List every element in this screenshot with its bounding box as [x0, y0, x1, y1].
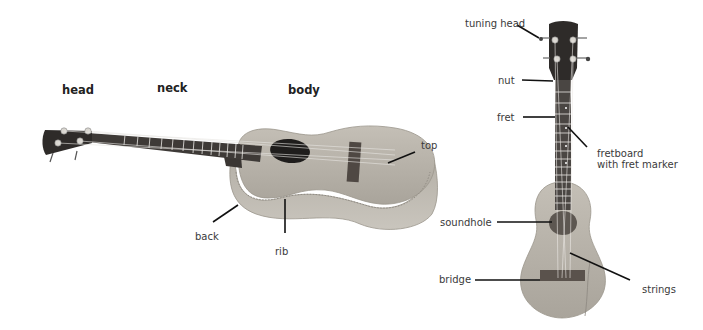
right-ukulele-headstock	[549, 21, 578, 80]
label-tuning-head: tuning head	[465, 18, 525, 30]
right-ukulele-soundhole	[549, 211, 577, 235]
label-strings: strings	[642, 284, 676, 296]
label-back: back	[195, 231, 219, 243]
label-head: head	[62, 84, 94, 96]
label-nut: nut	[498, 75, 515, 87]
label-body: body	[288, 84, 320, 96]
label-rib: rib	[275, 246, 288, 258]
right-ukulele-illustration	[521, 21, 606, 318]
right-ukulele-fretboard	[555, 80, 571, 210]
label-fretboard-marker: with fret marker	[597, 159, 678, 171]
ukulele-parts-diagram: head neck body top back rib tuning head …	[0, 0, 703, 330]
label-fret: fret	[497, 112, 515, 124]
label-neck: neck	[157, 82, 187, 94]
label-top: top	[421, 140, 437, 152]
left-ukulele-top	[238, 126, 435, 204]
left-ukulele-illustration	[42, 126, 437, 230]
label-bridge: bridge	[439, 274, 471, 286]
label-soundhole: soundhole	[440, 217, 492, 229]
left-ukulele-headstock	[42, 130, 92, 155]
